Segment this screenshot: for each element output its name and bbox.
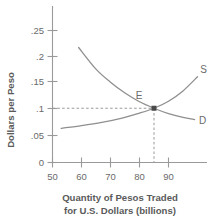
demand-curve [79,47,195,119]
x-axis-title-line2: for U.S. Dollars (billions) [64,205,176,216]
supply-curve-label: S [200,64,207,75]
supply-curve [61,77,197,129]
y-tick-label-01: .1 [36,103,44,114]
equilibrium-marker [152,106,157,111]
x-tick-label-90: 90 [163,171,174,182]
y-tick-label-02: .2 [36,51,44,62]
chart-svg: 0 .05 .1 .15 .2 .25 50 60 70 80 90 S D E… [0,0,212,220]
demand-curve-label: D [199,115,206,126]
y-axis-title: Dollars per Peso [5,72,16,148]
y-tick-label-025: .25 [31,25,44,36]
x-axis-title-line1: Quantity of Pesos Traded [62,192,178,203]
x-tick-label-70: 70 [105,171,116,182]
x-tick-label-60: 60 [76,171,87,182]
x-tick-label-50: 50 [47,171,58,182]
supply-demand-chart: 0 .05 .1 .15 .2 .25 50 60 70 80 90 S D E… [0,0,212,220]
equilibrium-point-label: E [136,90,143,101]
y-tick-label-005: .05 [31,130,44,141]
y-tick-label-015: .15 [31,76,44,87]
y-tick-label-0: 0 [39,157,44,168]
x-tick-label-80: 80 [134,171,145,182]
